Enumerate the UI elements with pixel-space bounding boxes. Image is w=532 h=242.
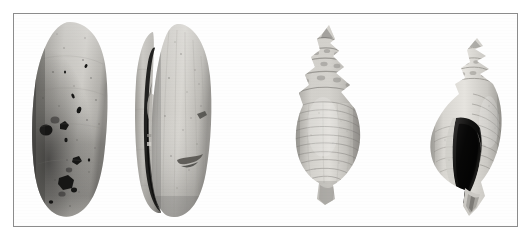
specimen-2-bivalve-interior	[125, 20, 217, 220]
specimen-1-drawing	[29, 20, 111, 220]
specimen-3-gastropod-dorsal	[289, 23, 365, 207]
specimen-3-drawing	[289, 23, 365, 207]
specimen-4-gastropod-ventral	[425, 36, 507, 218]
plate-frame	[13, 13, 518, 227]
specimen-4-drawing	[425, 36, 507, 218]
specimen-1-bivalve-exterior	[29, 20, 111, 220]
specimen-plate	[0, 0, 532, 242]
specimen-2-drawing	[125, 20, 217, 220]
